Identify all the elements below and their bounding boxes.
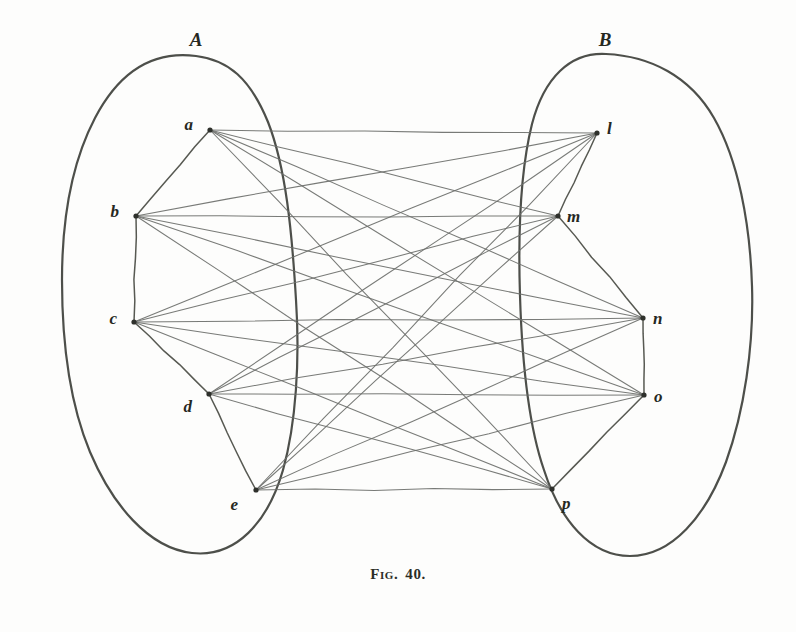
edge-a-m	[210, 130, 558, 216]
node-dot-p	[549, 486, 554, 491]
node-dot-a	[207, 127, 212, 132]
edge-c-m	[134, 216, 558, 322]
edge-d-o	[209, 394, 644, 396]
figure-caption: Fig.40.	[0, 566, 796, 583]
node-label-o: o	[654, 387, 663, 406]
node-label-e: e	[230, 495, 238, 514]
node-dot-b	[133, 213, 138, 218]
polygon-edge-d-e	[209, 394, 256, 490]
region-label-b: B	[598, 29, 612, 50]
region-outline-b	[519, 54, 752, 556]
node-label-c: c	[109, 309, 117, 328]
polygon-edge-n-o	[643, 318, 644, 395]
node-label-m: m	[567, 207, 580, 226]
node-label-p: p	[560, 494, 571, 513]
caption-number: 40.	[405, 566, 426, 582]
edge-e-n	[256, 318, 643, 490]
edge-e-p	[256, 489, 552, 491]
edge-a-l	[210, 130, 597, 133]
polygon-edge-m-n	[558, 216, 643, 318]
node-dot-e	[253, 487, 258, 492]
node-dot-o	[641, 392, 646, 397]
edge-e-m	[256, 216, 558, 490]
edge-c-n	[134, 318, 643, 322]
node-label-d: d	[184, 397, 193, 416]
region-label-group: AB	[189, 29, 612, 50]
node-dot-n	[640, 315, 645, 320]
node-label-b: b	[111, 202, 120, 221]
polygon-edge-b-c	[134, 216, 136, 322]
polygon-edge-o-p	[552, 395, 644, 489]
node-dot-m	[555, 213, 560, 218]
edge-b-m	[136, 216, 558, 217]
node-dot-c	[131, 319, 136, 324]
edge-c-o	[134, 322, 644, 395]
figure-container: abcdelmnop AB Fig.40.	[0, 0, 796, 632]
polygon-edge-a-b	[136, 130, 210, 216]
caption-prefix: Fig.	[370, 566, 398, 582]
edge-e-l	[256, 133, 597, 490]
node-label-a: a	[185, 115, 194, 134]
edge-b-p	[136, 216, 552, 489]
edge-d-m	[209, 216, 558, 394]
node-label-n: n	[653, 309, 662, 328]
region-label-a: A	[189, 29, 203, 50]
polygon-edge-c-d	[134, 322, 209, 394]
bipartite-graph-svg: abcdelmnop AB	[0, 0, 796, 632]
cross-edge-group	[134, 130, 644, 491]
node-dot-group	[131, 127, 646, 492]
edge-e-o	[256, 395, 644, 490]
region-outline-group	[62, 54, 752, 556]
edge-c-p	[134, 322, 552, 489]
node-label-l: l	[607, 119, 612, 138]
edge-d-p	[209, 394, 552, 489]
node-dot-d	[206, 391, 211, 396]
node-dot-l	[594, 130, 599, 135]
edge-d-n	[209, 318, 643, 394]
region-outline-a	[62, 55, 297, 553]
set-polygon-group	[134, 130, 644, 490]
edge-d-l	[209, 133, 597, 394]
polygon-edge-l-m	[558, 133, 597, 216]
